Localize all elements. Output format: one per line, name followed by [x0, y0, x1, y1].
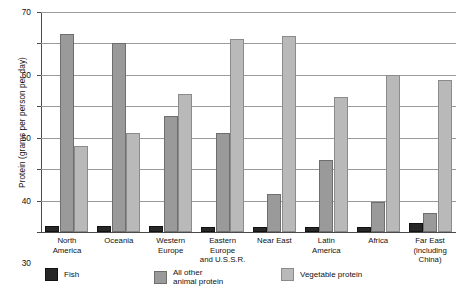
x-axis-label-line: (including	[404, 246, 456, 256]
bar-group	[145, 12, 197, 233]
y-tick-label-60: 60	[22, 70, 31, 80]
bar-animal	[319, 160, 333, 232]
bar-animal	[164, 116, 178, 232]
x-axis-label: EasternEuropeand U.S.S.R.	[197, 236, 249, 265]
legend-swatch-animal-icon	[154, 271, 167, 284]
plot-area: 010203040506070	[41, 12, 456, 233]
protein-sources-bar-chart: Protein (grams per person per day) 01020…	[0, 0, 463, 297]
x-axis-label-line: America	[41, 246, 93, 256]
x-axis-label-line: America	[300, 246, 352, 256]
legend-label: Vegetable protein	[300, 270, 362, 279]
x-axis-label: NorthAmerica	[41, 236, 93, 255]
x-axis-label-line: Europe	[145, 246, 197, 256]
bar-group	[41, 12, 93, 233]
y-tick-label-40: 40	[22, 196, 31, 206]
bar-fish	[201, 227, 215, 232]
bar-fish	[357, 227, 371, 232]
x-axis-label: Africa	[352, 236, 404, 246]
bar-animal	[371, 202, 385, 232]
legend-label: Fish	[64, 270, 79, 279]
bar-vegetable	[230, 39, 244, 232]
x-axis-label-line: and U.S.S.R.	[197, 255, 249, 265]
bar-animal	[216, 133, 230, 232]
bar-fish	[149, 226, 163, 232]
y-tick-label-50: 50	[22, 133, 31, 143]
x-axis-label: WesternEurope	[145, 236, 197, 255]
x-axis-label-line: Eastern	[197, 236, 249, 246]
legend-swatch-fish-icon	[45, 268, 58, 281]
bar-fish	[253, 227, 267, 232]
bar-group	[93, 12, 145, 233]
x-axis-label-line: Near East	[249, 236, 301, 246]
bar-animal	[60, 34, 74, 232]
x-axis-label-line: Oceania	[93, 236, 145, 246]
legend-swatch-vegetable-icon	[281, 268, 294, 281]
x-axis-label: LatinAmerica	[300, 236, 352, 255]
bar-vegetable	[74, 146, 88, 232]
bar-animal	[112, 43, 126, 232]
bar-animal	[423, 213, 437, 232]
chart-legend: FishAll other animal proteinVegetable pr…	[41, 268, 456, 294]
y-axis-title: Protein (grams per person per day)	[18, 38, 27, 208]
x-axis-label-line: Far East	[404, 236, 456, 246]
legend-label: All other animal protein	[173, 268, 223, 287]
bar-group	[197, 12, 249, 233]
legend-item-fish: Fish	[45, 268, 79, 281]
bar-vegetable	[282, 36, 296, 232]
x-axis-label-line: Latin	[300, 236, 352, 246]
bar-fish	[97, 226, 111, 232]
legend-item-animal: All other animal protein	[154, 268, 223, 287]
bar-group	[352, 12, 404, 233]
y-tick-label-30: 30	[22, 258, 31, 268]
y-tick-label-70: 70	[22, 7, 31, 17]
bar-animal	[267, 194, 281, 232]
bar-vegetable	[438, 80, 452, 232]
bar-vegetable	[178, 94, 192, 232]
legend-item-vegetable: Vegetable protein	[281, 268, 362, 281]
x-axis-label: Oceania	[93, 236, 145, 246]
bar-fish	[305, 227, 319, 232]
bar-vegetable	[126, 133, 140, 232]
bar-fish	[45, 226, 59, 232]
x-axis-label-line: Western	[145, 236, 197, 246]
bar-vegetable	[386, 75, 400, 232]
x-axis-label: Near East	[249, 236, 301, 246]
x-axis-label: Far East(includingChina)	[404, 236, 456, 265]
bar-fish	[409, 223, 423, 232]
x-axis-label-line: North	[41, 236, 93, 246]
bar-group	[300, 12, 352, 233]
bar-vegetable	[334, 97, 348, 232]
bar-group	[249, 12, 301, 233]
x-axis-label-line: Africa	[352, 236, 404, 246]
bar-group	[404, 12, 456, 233]
x-axis-label-line: China)	[404, 255, 456, 265]
x-axis-label-line: Europe	[197, 246, 249, 256]
